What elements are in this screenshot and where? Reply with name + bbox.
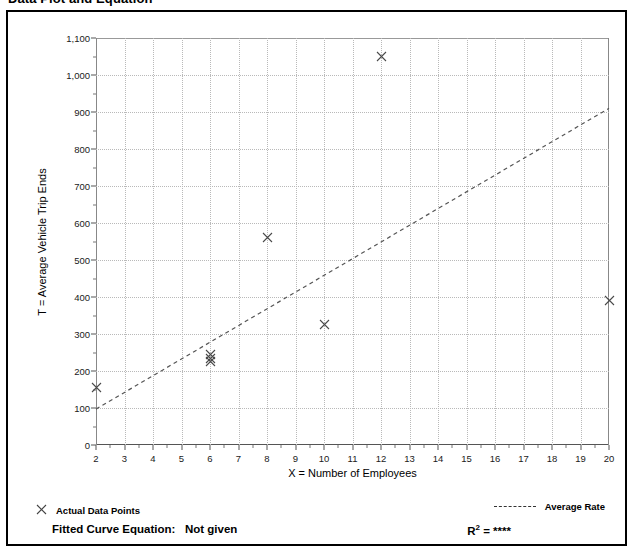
x-axis-tick-label: 19	[575, 453, 586, 464]
x-axis-tick	[580, 445, 581, 450]
x-axis-minor-tick	[338, 445, 339, 448]
x-axis-tick-label: 9	[293, 453, 298, 464]
legend-label-average-rate: Average Rate	[545, 501, 605, 512]
x-axis-tick-label: 13	[404, 453, 415, 464]
x-axis-minor-tick	[480, 445, 481, 448]
x-axis-minor-tick	[110, 445, 111, 448]
x-axis-minor-tick	[509, 445, 510, 448]
x-axis-tick	[181, 445, 182, 450]
fitted-curve-label: Fitted Curve Equation:	[52, 523, 175, 535]
x-marker-icon	[36, 501, 47, 519]
y-axis-tick-label: 600	[74, 218, 90, 229]
y-axis-tick-label: 100	[74, 403, 90, 414]
x-axis-tick-label: 4	[150, 453, 155, 464]
x-axis-tick-label: 6	[207, 453, 212, 464]
y-axis-tick-label: 400	[74, 292, 90, 303]
x-axis-tick-label: 10	[319, 453, 330, 464]
r-squared-equals: =	[483, 525, 490, 537]
legend-item-actual-data-points: Actual Data Points	[36, 501, 140, 519]
x-axis-title: X = Number of Employees	[96, 467, 609, 479]
average-rate-trend-line	[96, 108, 609, 409]
y-axis-tick-label: 1,100	[66, 33, 90, 44]
chart-footer: Actual Data Points Average Rate Fitted C…	[8, 497, 629, 546]
data-point-marker	[205, 356, 216, 367]
x-axis-tick	[153, 445, 154, 450]
x-axis-minor-tick	[224, 445, 225, 448]
x-axis-tick-label: 15	[461, 453, 472, 464]
x-axis-tick	[523, 445, 524, 450]
x-axis-tick-label: 12	[376, 453, 387, 464]
x-axis-tick	[409, 445, 410, 450]
y-axis-tick-label: 900	[74, 107, 90, 118]
x-axis-tick	[381, 445, 382, 450]
y-axis-tick-label: 700	[74, 181, 90, 192]
x-axis-tick	[210, 445, 211, 450]
x-axis-minor-tick	[366, 445, 367, 448]
r-squared-superscript: 2	[476, 523, 480, 532]
x-axis-minor-tick	[395, 445, 396, 448]
equation-row: Fitted Curve Equation: Not given R2 = **…	[8, 523, 629, 543]
x-axis-tick-label: 5	[179, 453, 184, 464]
r-squared-value: R2 = ****	[467, 523, 511, 537]
x-axis-minor-tick	[452, 445, 453, 448]
x-axis-minor-tick	[252, 445, 253, 448]
x-axis-tick	[552, 445, 553, 450]
x-axis-tick-label: 2	[93, 453, 98, 464]
x-axis-minor-tick	[138, 445, 139, 448]
dashed-line-icon	[494, 506, 536, 507]
x-axis-minor-tick	[594, 445, 595, 448]
data-point-marker	[262, 232, 273, 243]
x-axis-tick	[295, 445, 296, 450]
x-axis-tick-label: 20	[604, 453, 615, 464]
x-axis-tick	[466, 445, 467, 450]
x-axis-tick-label: 16	[490, 453, 501, 464]
data-point-marker	[604, 295, 615, 306]
r-squared-number: ****	[493, 525, 511, 537]
y-axis-tick-label: 200	[74, 366, 90, 377]
chart-panel: T = Average Vehicle Trip Ends 0100200300…	[6, 10, 627, 546]
x-axis-minor-tick	[566, 445, 567, 448]
x-axis-minor-tick	[309, 445, 310, 448]
x-axis-tick-label: 17	[518, 453, 529, 464]
x-axis-tick-label: 7	[236, 453, 241, 464]
x-axis-minor-tick	[195, 445, 196, 448]
x-axis-tick	[324, 445, 325, 450]
x-axis-tick	[96, 445, 97, 450]
page-title: Data Plot and Equation	[8, 0, 152, 6]
scatter-chart: T = Average Vehicle Trip Ends 0100200300…	[8, 12, 629, 497]
y-axis-tick-label: 500	[74, 255, 90, 266]
x-axis-tick-label: 14	[433, 453, 444, 464]
legend-item-average-rate: Average Rate	[494, 501, 605, 512]
legend: Actual Data Points Average Rate	[8, 501, 629, 521]
x-axis-tick	[124, 445, 125, 450]
r-squared-label: R	[467, 525, 475, 537]
x-axis-minor-tick	[167, 445, 168, 448]
x-axis-tick	[495, 445, 496, 450]
fitted-curve-value: Not given	[185, 523, 237, 535]
fitted-curve-equation: Fitted Curve Equation: Not given	[52, 523, 237, 535]
x-axis-tick-label: 3	[122, 453, 127, 464]
y-axis-tick-label: 300	[74, 329, 90, 340]
y-axis-tick-label: 0	[85, 440, 90, 451]
plot-area: 01002003004005006007008009001,0001,10023…	[96, 38, 609, 445]
x-axis-tick-label: 8	[264, 453, 269, 464]
y-axis-tick-label: 800	[74, 144, 90, 155]
data-point-marker	[91, 382, 102, 393]
x-axis-tick-label: 18	[547, 453, 558, 464]
data-point-marker	[376, 51, 387, 62]
x-axis-tick-label: 11	[348, 453, 358, 464]
x-axis-minor-tick	[537, 445, 538, 448]
x-axis-tick	[438, 445, 439, 450]
x-axis-tick	[352, 445, 353, 450]
x-axis-tick	[609, 445, 610, 450]
x-axis-minor-tick	[423, 445, 424, 448]
legend-label-actual-data-points: Actual Data Points	[56, 505, 140, 516]
y-axis-title-text: T = Average Vehicle Trip Ends	[36, 168, 48, 315]
y-axis-tick-label: 1,000	[66, 70, 90, 81]
x-axis-minor-tick	[281, 445, 282, 448]
x-axis-tick	[267, 445, 268, 450]
series-layer	[96, 38, 609, 445]
data-point-marker	[319, 319, 330, 330]
y-axis-title: T = Average Vehicle Trip Ends	[34, 38, 50, 445]
x-axis-tick	[238, 445, 239, 450]
